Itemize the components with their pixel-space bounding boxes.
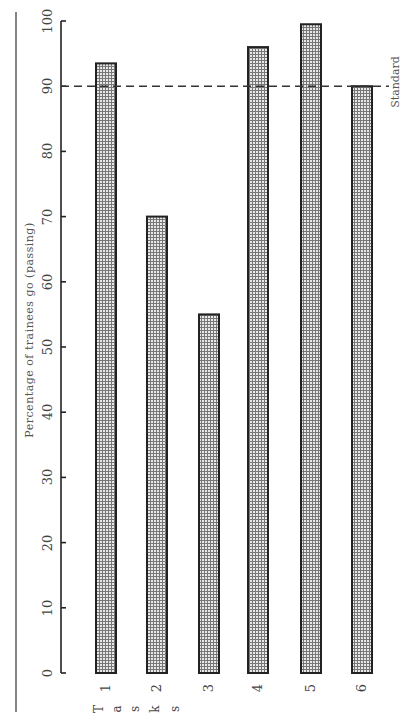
y-tick-label: 80 (39, 137, 57, 165)
x-tick-label: 4 (249, 679, 267, 697)
bar-task-2 (147, 217, 167, 673)
x-tick-label: 3 (200, 679, 218, 697)
y-tick-label: 90 (39, 72, 57, 100)
y-tick-label: 100 (39, 7, 57, 35)
x-tick-label: 6 (353, 679, 371, 697)
y-axis-label: Percentage of trainees go (passing) (22, 200, 38, 460)
y-tick-label: 60 (39, 268, 57, 296)
x-axis-label-letter: k (148, 705, 162, 712)
x-axis-label-letter: s (128, 706, 142, 712)
y-tick-label: 70 (39, 203, 57, 231)
y-tick-label: 0 (39, 659, 57, 687)
y-axis (61, 21, 66, 673)
x-tick-label: 2 (148, 679, 166, 697)
x-tick-label: 5 (302, 679, 320, 697)
bars (96, 24, 372, 673)
x-axis-label-letter: T (92, 705, 106, 713)
x-axis-label-letter: s (168, 706, 182, 712)
bar-task-3 (199, 314, 219, 673)
y-tick-label: 30 (39, 463, 57, 491)
bar-chart: Percentage of trainees go (passing) Stan… (0, 0, 407, 721)
bar-task-5 (301, 24, 321, 673)
y-tick-label: 40 (39, 398, 57, 426)
x-tick-label: 1 (97, 679, 115, 697)
chart-canvas (0, 0, 407, 721)
bar-task-6 (352, 86, 372, 673)
standard-label: Standard (389, 52, 403, 112)
bar-task-4 (248, 47, 268, 673)
y-tick-label: 10 (39, 594, 57, 622)
x-axis-label-letter: a (110, 705, 124, 712)
y-tick-label: 50 (39, 333, 57, 361)
y-tick-label: 20 (39, 529, 57, 557)
bar-task-1 (96, 63, 116, 673)
